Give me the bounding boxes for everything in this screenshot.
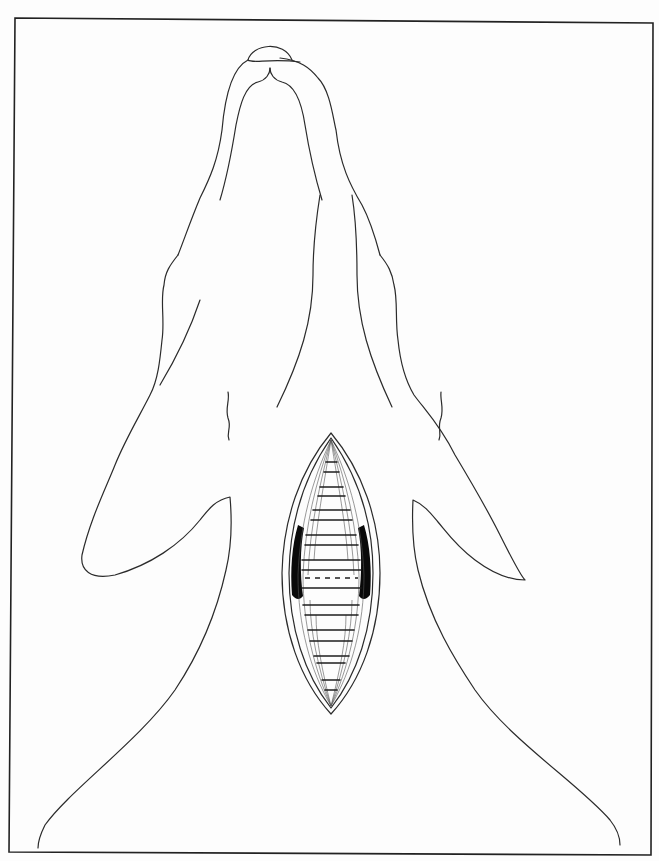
mandible-inner-right	[270, 68, 322, 200]
frame	[9, 18, 653, 855]
body-outline-right	[380, 255, 620, 845]
head-outline-right	[280, 58, 380, 255]
incision	[282, 433, 380, 714]
body-outline-left	[38, 255, 231, 848]
figure-canvas: Ventral view, surgical approach to cervi…	[0, 0, 659, 861]
nose-cap	[248, 46, 292, 60]
neck-line-left	[277, 195, 320, 407]
mandible-inner	[220, 68, 270, 200]
head-outline-left	[178, 60, 300, 255]
forelimb-left	[160, 300, 200, 385]
shoulder-line-left	[227, 392, 229, 440]
anatomical-illustration	[0, 0, 659, 861]
